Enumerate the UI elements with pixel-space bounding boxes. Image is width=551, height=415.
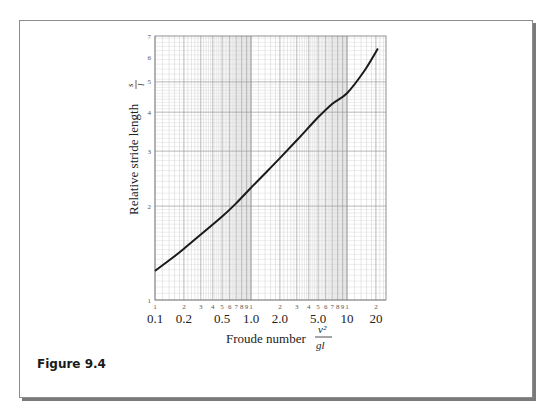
- figure-caption: Figure 9.4: [37, 357, 106, 371]
- x-minor-tick-label: 5: [316, 303, 320, 311]
- x-major-tick-label: 0.5: [214, 311, 230, 326]
- x-axis-fraction-denominator: gl: [316, 339, 325, 351]
- x-minor-tick-label: 9: [341, 303, 345, 311]
- x-minor-tick-label: 4: [307, 303, 311, 311]
- y-tick-label: 1: [148, 297, 152, 305]
- x-minor-tick-label: 2: [374, 303, 378, 311]
- x-minor-tick-label: 3: [295, 303, 299, 311]
- x-minor-tick-label: 1: [249, 303, 253, 311]
- y-axis-ticks: 1234567: [148, 33, 152, 305]
- y-tick-label: 5: [148, 78, 152, 86]
- y-axis-title: Relative stride length: [126, 103, 141, 215]
- x-minor-tick-label: 6: [324, 303, 328, 311]
- y-tick-label: 6: [148, 54, 152, 62]
- x-axis-minor-tick-labels: 12345678912345678912: [153, 303, 378, 311]
- x-major-tick-label: 20: [369, 311, 382, 326]
- y-tick-label: 4: [148, 109, 152, 117]
- x-minor-tick-label: 6: [228, 303, 232, 311]
- x-major-tick-label: 0.2: [176, 311, 192, 326]
- x-minor-tick-label: 8: [336, 303, 340, 311]
- x-minor-tick-label: 4: [211, 303, 215, 311]
- x-major-tick-label: 2.0: [272, 311, 288, 326]
- x-minor-tick-label: 2: [182, 303, 186, 311]
- chart: 1234567 12345678912345678912 0.10.20.51.…: [0, 0, 551, 415]
- x-major-tick-label: 1.0: [243, 311, 259, 326]
- x-minor-tick-label: 1: [345, 303, 349, 311]
- x-minor-tick-label: 9: [245, 303, 249, 311]
- x-axis-title: Froude number: [226, 331, 306, 346]
- x-minor-tick-label: 2: [278, 303, 282, 311]
- x-axis-fraction-numerator: v²: [318, 323, 327, 335]
- y-axis-fraction-numerator: s: [125, 83, 135, 87]
- y-tick-label: 7: [148, 33, 152, 41]
- x-axis-major-tick-labels: 0.10.20.51.02.05.01020: [147, 311, 383, 326]
- x-major-tick-label: 0.1: [147, 311, 163, 326]
- x-minor-tick-label: 8: [240, 303, 244, 311]
- x-minor-tick-label: 5: [220, 303, 224, 311]
- y-axis-fraction-denominator: l: [136, 83, 146, 86]
- x-minor-tick-label: 3: [199, 303, 203, 311]
- y-tick-label: 3: [148, 148, 152, 156]
- x-minor-tick-label: 7: [330, 303, 334, 311]
- x-minor-tick-label: 1: [153, 303, 157, 311]
- x-minor-tick-label: 7: [234, 303, 238, 311]
- y-tick-label: 2: [148, 203, 152, 211]
- x-major-tick-label: 10: [341, 311, 354, 326]
